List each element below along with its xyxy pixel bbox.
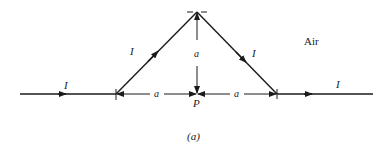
point-label-p: P (192, 97, 200, 109)
current-label-right-wire: I (335, 78, 341, 90)
figure-caption: (a) (187, 130, 200, 143)
current-label-left-wire: I (63, 79, 69, 91)
dim-label-vertical: a (194, 48, 199, 59)
current-label-right-diagonal: I (251, 47, 257, 59)
arrow-icon (148, 51, 158, 61)
dim-label-left: a (154, 88, 159, 99)
current-arrows (58, 51, 312, 94)
medium-label: Air (304, 35, 319, 47)
dim-label-right: a (234, 88, 239, 99)
diagram-canvas: I I I I Air a a a P (a) (0, 0, 388, 154)
arrow-icon (236, 52, 246, 62)
current-label-left-diagonal: I (129, 45, 135, 57)
